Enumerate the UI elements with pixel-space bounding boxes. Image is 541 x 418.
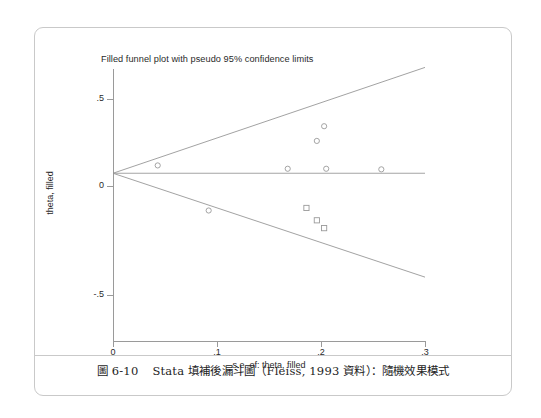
- observed-study-marker-0: [155, 163, 160, 168]
- observed-study-marker-5: [324, 166, 329, 171]
- filled-study-marker-2: [322, 226, 327, 231]
- observed-study-marker-1: [206, 208, 211, 213]
- lower-confidence-limit-line: [113, 173, 425, 277]
- caption-number: 圖 6-10: [97, 364, 139, 378]
- series-observed-studies: [155, 124, 384, 213]
- filled-study-marker-0: [304, 205, 309, 210]
- plot-data-layer: [34, 28, 512, 354]
- observed-study-marker-2: [285, 166, 290, 171]
- upper-confidence-limit-line: [113, 67, 425, 173]
- funnel-plot: Filled funnel plot with pseudo 95% confi…: [34, 28, 512, 354]
- observed-study-marker-6: [379, 167, 384, 172]
- series-filled-studies: [304, 205, 327, 230]
- filled-study-marker-1: [314, 218, 319, 223]
- figure-page: Filled funnel plot with pseudo 95% confi…: [0, 0, 541, 418]
- caption-text: Stata 填補後漏斗圖（Fleiss, 1993 資料）：隨機效果模式: [152, 364, 449, 378]
- figure-caption: 圖 6-10Stata 填補後漏斗圖（Fleiss, 1993 資料）：隨機效果…: [34, 362, 512, 378]
- observed-study-marker-3: [314, 138, 319, 143]
- observed-study-marker-4: [322, 124, 327, 129]
